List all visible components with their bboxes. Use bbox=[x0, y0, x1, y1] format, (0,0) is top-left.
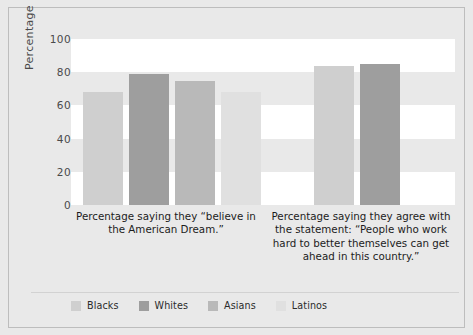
bar bbox=[221, 92, 261, 205]
y-tick-label: 60 bbox=[15, 99, 71, 111]
plot-area bbox=[71, 39, 455, 205]
x-axis-labels: Percentage saying they “believe in the A… bbox=[71, 210, 455, 286]
y-axis: Percentage 100 80 60 40 20 0 bbox=[9, 8, 71, 327]
bar bbox=[83, 92, 123, 205]
legend-swatch bbox=[276, 301, 286, 311]
bar bbox=[175, 81, 215, 206]
x-category-label: Percentage saying they agree with the st… bbox=[267, 210, 455, 264]
legend-item[interactable]: Latinos bbox=[276, 300, 327, 311]
chart-frame: Percentage 100 80 60 40 20 0 Percentage … bbox=[8, 7, 465, 328]
bars-layer bbox=[71, 39, 455, 205]
legend-label: Asians bbox=[224, 300, 256, 311]
y-tick-label: 100 bbox=[15, 33, 71, 45]
chart-figure: Percentage 100 80 60 40 20 0 Percentage … bbox=[0, 0, 473, 335]
legend-label: Latinos bbox=[292, 300, 327, 311]
legend-divider bbox=[31, 292, 459, 293]
bar bbox=[360, 64, 400, 205]
legend-label: Whites bbox=[155, 300, 189, 311]
x-category-label: Percentage saying they “believe in the A… bbox=[71, 210, 261, 237]
legend-label: Blacks bbox=[87, 300, 119, 311]
bar bbox=[314, 66, 354, 205]
legend-swatch bbox=[71, 301, 81, 311]
legend-swatch bbox=[208, 301, 218, 311]
chart-legend: BlacksWhitesAsiansLatinos bbox=[71, 300, 347, 311]
y-tick-label: 0 bbox=[15, 199, 71, 211]
y-tick-label: 40 bbox=[15, 133, 71, 145]
legend-item[interactable]: Whites bbox=[139, 300, 189, 311]
y-tick-label: 80 bbox=[15, 66, 71, 78]
legend-item[interactable]: Blacks bbox=[71, 300, 119, 311]
legend-swatch bbox=[139, 301, 149, 311]
legend-item[interactable]: Asians bbox=[208, 300, 256, 311]
y-tick-label: 20 bbox=[15, 166, 71, 178]
bar bbox=[129, 74, 169, 205]
